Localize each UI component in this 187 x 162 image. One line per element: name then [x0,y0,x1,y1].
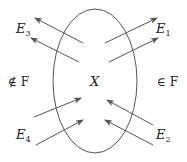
edge-label-e3: E3 [15,21,31,38]
arrow-e3-a [35,18,83,43]
edge-group-e1: E1 [105,18,171,62]
in-f-label: ∈ F [157,75,178,89]
arrow-e4-b [36,120,83,145]
edge-group-e4: E4 [15,98,83,145]
edge-label-e4: E4 [15,127,31,144]
edge-label-e2: E2 [155,127,171,144]
set-label-x: X [89,74,100,89]
edge-group-e2: E2 [105,100,171,145]
not-in-f-label: ∉ F [8,75,29,89]
arrow-e1-b [109,38,158,62]
edge-label-e1: E1 [155,21,171,38]
arrow-e1-a [105,18,157,43]
edge-group-e3: E3 [15,18,83,62]
diagram-canvas: E3 E1 E4 E2 X ∉ F ∈ F [0,0,187,162]
